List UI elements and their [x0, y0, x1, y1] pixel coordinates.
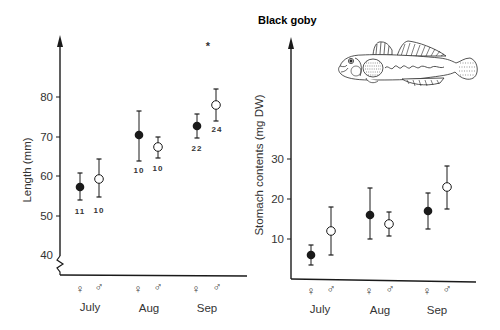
- tick-label: 30: [271, 153, 284, 165]
- month-label-july: July: [310, 303, 331, 315]
- month-label-july: July: [80, 301, 101, 313]
- month-label-aug: Aug: [139, 302, 159, 314]
- sample-size-label: 10: [153, 164, 164, 173]
- data-point-aug-female: [366, 188, 375, 239]
- tick-label: 80: [40, 91, 53, 103]
- data-point-july-female: [307, 245, 316, 265]
- right-y-axis-arrow-icon: [288, 37, 294, 49]
- right-y-ticks: 30 20 10: [271, 153, 291, 245]
- tick-label: 20: [271, 193, 284, 205]
- male-symbol-icon: ♂: [95, 280, 104, 294]
- female-symbol-icon: ♀: [365, 284, 374, 298]
- tick-label: 60: [40, 170, 53, 182]
- sample-size-label: 24: [212, 125, 223, 134]
- data-point-aug-female: [135, 111, 144, 161]
- data-point-sep-female: [424, 193, 433, 229]
- data-point-aug-male: [385, 212, 394, 236]
- left-y-ticks: 80 70 60 50 40: [40, 91, 60, 261]
- female-symbol-icon: ♀: [423, 284, 432, 298]
- data-point-sep-male: [443, 166, 452, 209]
- data-point-july-female: [76, 173, 85, 200]
- sample-size-label: 11: [75, 207, 85, 216]
- male-symbol-icon: ♂: [327, 282, 336, 296]
- left-y-axis-label: Length (mm): [21, 137, 33, 202]
- male-symbol-icon: ♂: [213, 280, 222, 294]
- female-symbol-icon: ♀: [134, 282, 143, 296]
- right-y-axis-label: Stomach contents (mg DW): [253, 94, 265, 235]
- tick-label: 50: [40, 210, 53, 222]
- male-symbol-icon: ♂: [443, 282, 452, 296]
- data-point-sep-male: [212, 89, 221, 121]
- female-symbol-icon: ♀: [76, 282, 85, 296]
- sample-size-label: 10: [94, 206, 105, 215]
- left-x-axis: [60, 275, 247, 276]
- female-symbol-icon: ♀: [192, 282, 201, 296]
- length-chart: 80 70 60 50 40 Length (mm): [21, 35, 247, 314]
- month-label-aug: Aug: [370, 304, 390, 316]
- female-symbol-icon: ♀: [307, 284, 316, 298]
- male-symbol-icon: ♂: [154, 280, 163, 294]
- axis-break-icon: [57, 256, 63, 275]
- significance-asterisk: *: [206, 40, 211, 52]
- month-label-sep: Sep: [197, 302, 217, 314]
- tick-label: 70: [40, 131, 53, 143]
- data-point-sep-female: [193, 114, 202, 138]
- data-point-aug-male: [154, 137, 163, 158]
- figure-title: Black goby: [258, 14, 318, 26]
- tick-label: 10: [271, 233, 284, 245]
- tick-label: 40: [40, 249, 53, 261]
- data-point-july-male: [327, 207, 336, 255]
- sample-size-label: 22: [192, 144, 203, 153]
- month-label-sep: Sep: [427, 304, 447, 316]
- sample-size-label: 10: [134, 166, 145, 175]
- figure: 80 70 60 50 40 Length (mm): [0, 0, 500, 330]
- black-goby-fish-icon: [339, 41, 478, 86]
- male-symbol-icon: ♂: [386, 282, 395, 296]
- data-point-july-male: [95, 159, 104, 197]
- left-y-axis-arrow-icon: [57, 35, 63, 47]
